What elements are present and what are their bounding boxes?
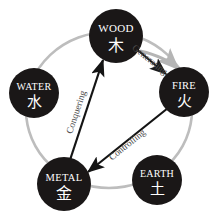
node-wood[interactable]: WOOD 木 [89, 9, 143, 63]
node-water-label: WATER [17, 81, 52, 92]
node-earth-label: EARTH [140, 168, 174, 179]
node-wood-glyph: 木 [108, 36, 124, 55]
wuxing-diagram: WOOD 木 FIRE 火 EARTH 土 METAL 金 WATER 水 [0, 0, 218, 216]
node-metal[interactable]: METAL 金 [37, 157, 91, 211]
edge-label-controlling: Controlling [107, 127, 148, 162]
node-earth-glyph: 土 [150, 180, 165, 198]
node-wood-label: WOOD [98, 22, 133, 34]
node-fire-label: FIRE [172, 80, 196, 91]
node-water-glyph: 水 [27, 93, 42, 111]
node-fire-glyph: 火 [177, 92, 192, 110]
wuxing-svg-canvas: WOOD 木 FIRE 火 EARTH 土 METAL 金 WATER 水 [0, 0, 218, 216]
node-fire[interactable]: FIRE 火 [159, 67, 209, 117]
node-earth[interactable]: EARTH 土 [132, 155, 182, 205]
edge-label-conquering: Conquering [64, 89, 87, 135]
node-metal-glyph: 金 [56, 184, 72, 203]
node-water[interactable]: WATER 水 [9, 68, 59, 118]
node-metal-label: METAL [46, 172, 83, 183]
